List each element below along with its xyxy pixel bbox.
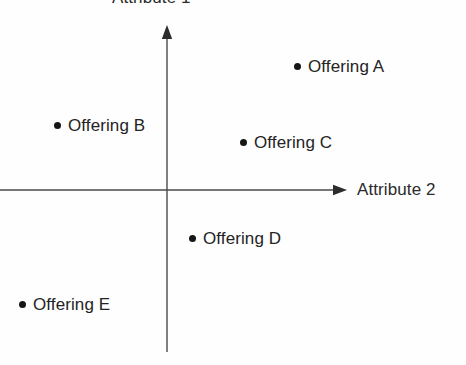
y-axis-arrowhead-icon bbox=[162, 25, 172, 39]
data-point-offering-c[interactable]: Offering C bbox=[240, 134, 332, 151]
data-point-offering-a[interactable]: Offering A bbox=[294, 58, 384, 75]
x-axis-title: Attribute 2 bbox=[357, 180, 436, 200]
y-axis-title: Attribute 1 bbox=[112, 0, 191, 8]
data-point-offering-b[interactable]: Offering B bbox=[54, 117, 145, 134]
x-axis-arrowhead-icon bbox=[333, 185, 347, 195]
data-point-offering-d[interactable]: Offering D bbox=[189, 230, 281, 247]
data-point-label: Offering C bbox=[254, 134, 332, 151]
data-point-offering-e[interactable]: Offering E bbox=[19, 296, 110, 313]
data-point-label: Offering E bbox=[33, 296, 110, 313]
data-point-label: Offering B bbox=[68, 117, 145, 134]
data-point-dot-icon bbox=[294, 63, 301, 70]
data-point-dot-icon bbox=[54, 122, 61, 129]
data-point-dot-icon bbox=[240, 139, 247, 146]
data-point-dot-icon bbox=[19, 301, 26, 308]
data-point-label: Offering A bbox=[308, 58, 384, 75]
data-point-dot-icon bbox=[189, 235, 196, 242]
data-point-label: Offering D bbox=[203, 230, 281, 247]
